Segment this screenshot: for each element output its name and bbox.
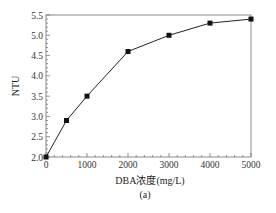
data-series [44,17,254,160]
x-tick-label: 3000 [160,160,179,170]
y-tick-label: 4.5 [31,51,43,61]
x-tick-label: 2000 [119,160,138,170]
y-axis-label: NTU [10,75,21,96]
y-tick-label: 5.0 [31,31,43,41]
x-tick-label: 4000 [201,160,220,170]
y-tick-label: 3.0 [31,112,43,122]
x-tick-label: 5000 [242,160,261,170]
y-tick-label: 2.0 [31,153,43,163]
series-line [46,19,251,157]
x-axis-label: DBA浓度(mg/L) [115,174,184,187]
x-tick-label: 1000 [78,160,97,170]
y-axis: 2.02.53.03.54.04.55.05.5 [31,11,50,163]
x-axis: 010002000300040005000 [44,153,261,170]
y-tick-label: 5.5 [31,11,43,21]
square-marker [167,33,172,38]
y-tick-label: 3.5 [31,92,43,102]
x-tick-label: 0 [44,160,49,170]
square-marker [64,118,69,123]
square-marker [85,94,90,99]
figure-caption: (a) [139,189,150,201]
square-marker [44,155,49,160]
y-tick-label: 2.5 [31,132,43,142]
plot-border [46,15,251,157]
square-marker [249,17,254,22]
plot-frame [46,15,251,157]
line-chart: 2.02.53.03.54.04.55.05.5 010002000300040… [0,0,276,213]
y-tick-label: 4.0 [31,71,43,81]
square-marker [126,49,131,54]
square-marker [208,21,213,26]
